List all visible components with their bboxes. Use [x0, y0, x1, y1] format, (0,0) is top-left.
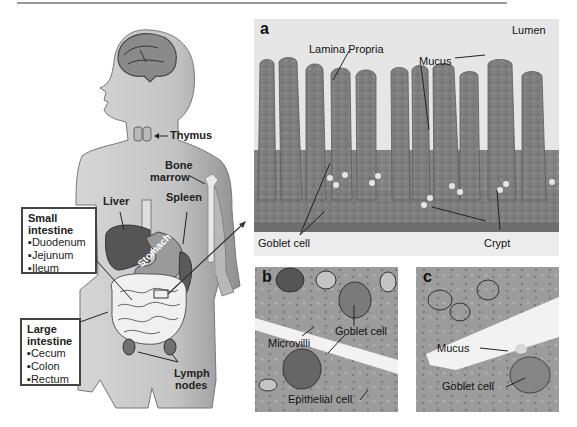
panel-a-letter: a: [260, 20, 269, 38]
microvilli-label: Microvilli: [268, 338, 310, 349]
large-intestine-item: ▪Rectum: [27, 373, 74, 386]
small-intestine-box: Small intestine ▪Duodenum ▪Jejunum ▪Ileu…: [21, 207, 97, 274]
large-intestine-box: Large intestine ▪Cecum ▪Colon ▪Rectum: [20, 318, 81, 386]
liver-label: Liver: [103, 196, 129, 207]
epithelial-cell-label: Epithelial cell: [288, 394, 352, 405]
panel-b-letter: b: [262, 268, 272, 286]
small-intestine-item: ▪Duodenum: [28, 236, 90, 249]
thymus-label: Thymus: [170, 130, 212, 141]
bone-label: Bone: [165, 160, 193, 171]
goblet-cell-label: Goblet cell: [258, 238, 310, 249]
large-intestine-item: ▪Cecum: [27, 347, 74, 360]
large-intestine-title-2: intestine: [27, 335, 74, 347]
mucus-label: Mucus: [437, 343, 469, 354]
crypt-label: Crypt: [484, 238, 510, 249]
small-intestine-title-2: intestine: [28, 224, 90, 236]
goblet-cell-label: Goblet cell: [335, 326, 387, 337]
marrow-label: marrow: [150, 172, 190, 183]
panel-a-image: [254, 19, 559, 256]
goblet-cell-label: Goblet cell: [442, 381, 494, 392]
lamina-propria-label: Lamina Propria: [309, 44, 384, 55]
lymph-label: Lymph: [174, 368, 210, 379]
small-intestine-item: ▪Ileum: [28, 262, 90, 275]
nodes-label: nodes: [175, 380, 207, 391]
panel-c-letter: c: [423, 268, 432, 286]
lumen-label: Lumen: [512, 25, 546, 36]
mucus-label: Mucus: [419, 56, 451, 67]
spleen-label: Spleen: [166, 192, 202, 203]
small-intestine-item: ▪Jejunum: [28, 249, 90, 262]
large-intestine-item: ▪Colon: [27, 360, 74, 373]
small-intestine-title-1: Small: [28, 212, 90, 224]
large-intestine-title-1: Large: [27, 323, 74, 335]
